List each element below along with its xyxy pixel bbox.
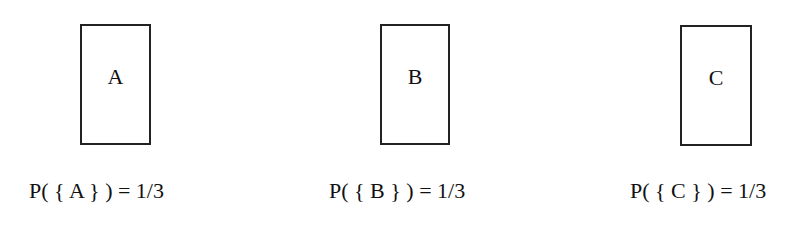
outcome-label-b: B [382, 64, 448, 90]
outcome-label-c: C [682, 65, 750, 91]
probability-b: P( { B } ) = 1/3 [329, 178, 465, 204]
outcome-label-a: A [82, 64, 149, 90]
outcome-box-a: A [80, 24, 151, 145]
outcome-box-c: C [680, 25, 752, 146]
outcome-box-b: B [380, 24, 450, 145]
probability-a: P( { A } ) = 1/3 [29, 178, 164, 204]
probability-c: P( { C } ) = 1/3 [630, 178, 766, 204]
